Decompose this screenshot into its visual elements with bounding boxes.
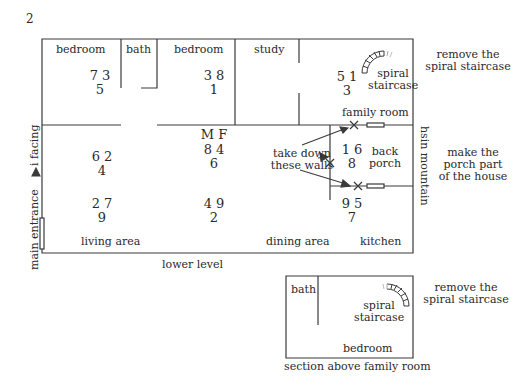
upper-room-label-bath: bath xyxy=(291,284,316,296)
room-label-bedroom: bedroom xyxy=(56,44,106,56)
caption-lower-level: lower level xyxy=(162,259,223,271)
room-label-bath: bath xyxy=(126,44,151,56)
spiral-staircase-label: spiral staircase xyxy=(368,68,418,92)
upper-spiral-staircase-label: spiral staircase xyxy=(354,300,404,324)
room-label-family-room: family room xyxy=(342,107,409,119)
legend-m-f: M F xyxy=(196,128,232,142)
upper-room-label-bedroom: bedroom xyxy=(343,343,393,355)
upper-annotation-remove-spiral-staircase: remove the spiral staircase xyxy=(416,282,516,306)
number-group-kitchen: 9 5 7 xyxy=(334,197,370,225)
room-label-living-area: living area xyxy=(81,236,140,248)
room-label-bedroom-2: bedroom xyxy=(174,44,224,56)
caption-section-above-family-room: section above family room xyxy=(284,361,431,373)
page-number: 2 xyxy=(26,13,34,25)
number-group-living-upper: 6 2 4 xyxy=(84,150,120,178)
number-group-bedroom-2: 3 8 1 xyxy=(196,69,232,97)
annotation-porch-part-of-house: make the porch part of the house xyxy=(430,147,516,183)
number-group-bedroom: 7 3 5 xyxy=(82,69,118,97)
number-group-family-room: 5 1 3 xyxy=(329,70,365,98)
number-group-center-lower: 4 9 2 xyxy=(196,197,232,225)
room-label-kitchen: kitchen xyxy=(360,236,401,248)
room-label-dining-area: dining area xyxy=(266,236,330,248)
room-label-back-porch: back porch xyxy=(368,146,402,170)
number-group-center-upper: 8 4 6 xyxy=(196,143,232,171)
number-group-living-lower: 2 7 9 xyxy=(84,197,120,225)
label-mountain: hsin mountain xyxy=(418,126,431,206)
annotation-remove-spiral-staircase: remove the spiral staircase xyxy=(420,49,516,73)
room-label-study: study xyxy=(254,44,284,56)
annotation-take-down-walls: take down these walls xyxy=(262,148,342,172)
label-facing: i facing xyxy=(28,125,41,166)
label-main-entrance: main entrance xyxy=(28,189,41,270)
